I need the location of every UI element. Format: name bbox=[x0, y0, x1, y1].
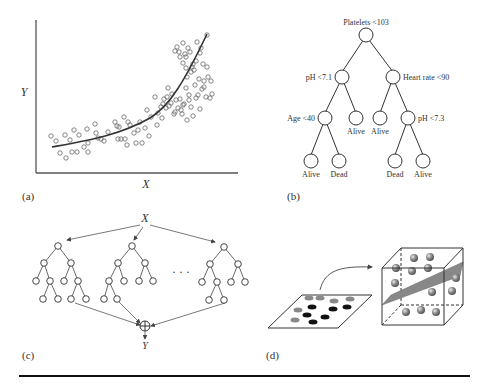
scatter-point bbox=[185, 118, 189, 122]
tree-node bbox=[206, 297, 213, 304]
tree-node bbox=[332, 154, 346, 168]
node-label: Heart rate <90 bbox=[403, 73, 449, 82]
scatter-point bbox=[77, 133, 81, 137]
scatter-point bbox=[202, 79, 206, 83]
node-label: Alive bbox=[371, 127, 389, 136]
scatter-point bbox=[187, 98, 191, 102]
scatter-point bbox=[184, 86, 188, 90]
tree-node bbox=[101, 296, 108, 303]
scatter-point bbox=[132, 131, 136, 135]
panel-c-tree-ensemble: X · · · Y bbox=[33, 211, 249, 351]
panel-label-c: (c) bbox=[22, 349, 34, 361]
scatter-point bbox=[68, 138, 72, 142]
figure-canvas: X Y Platelets <103 pH <7.1 Hear bbox=[0, 0, 481, 387]
panel-label-a: (a) bbox=[22, 190, 34, 202]
tree-node bbox=[401, 111, 415, 125]
scatter-point bbox=[197, 77, 201, 81]
scatter-point bbox=[145, 108, 149, 112]
scatter-point bbox=[209, 79, 213, 83]
node-label: Dead bbox=[387, 170, 404, 179]
node-label: Age <40 bbox=[287, 114, 315, 123]
node-label: Alive bbox=[414, 170, 432, 179]
scatter-point bbox=[125, 143, 129, 147]
node-label: pH <7.3 bbox=[418, 114, 444, 123]
scatter-point bbox=[182, 102, 186, 106]
scatter-point bbox=[136, 128, 140, 132]
tree-node bbox=[114, 296, 121, 303]
scatter-point bbox=[134, 141, 138, 145]
scatter-point bbox=[189, 105, 193, 109]
scatter-point bbox=[193, 83, 197, 87]
tree-node bbox=[55, 296, 62, 303]
scatter-point bbox=[58, 151, 62, 155]
scatter-point bbox=[49, 134, 53, 138]
node-label: Alive bbox=[302, 170, 320, 179]
y-axis-label: Y bbox=[21, 85, 29, 99]
tree-node bbox=[416, 154, 430, 168]
node-label: Dead bbox=[331, 170, 348, 179]
ensemble-input-label: X bbox=[140, 211, 149, 225]
scatter-point bbox=[184, 55, 188, 59]
scatter-point bbox=[86, 150, 90, 154]
scatter-point bbox=[183, 52, 187, 56]
combine-icon bbox=[140, 321, 150, 331]
scatter-point bbox=[205, 65, 209, 69]
tree-node bbox=[68, 260, 75, 267]
tree-node bbox=[40, 296, 47, 303]
scatter-point bbox=[63, 133, 67, 137]
tree-node bbox=[207, 261, 214, 268]
tree-node bbox=[68, 296, 75, 303]
scatter-point bbox=[85, 127, 89, 131]
scatter-point bbox=[94, 131, 98, 135]
scatter-point bbox=[72, 128, 76, 132]
tree-node bbox=[235, 261, 242, 268]
tree-node bbox=[55, 243, 62, 250]
scatter-points bbox=[49, 33, 214, 160]
scatter-point bbox=[181, 61, 185, 65]
scatter-point bbox=[75, 150, 79, 154]
tree-node bbox=[121, 278, 128, 285]
scatter-point bbox=[191, 114, 195, 118]
panel-label-d: (d) bbox=[266, 349, 279, 361]
scatter-point bbox=[106, 130, 110, 134]
scatter-point bbox=[187, 93, 191, 97]
tree-node bbox=[318, 111, 332, 125]
scatter-point bbox=[173, 49, 177, 53]
tree-node bbox=[142, 260, 149, 267]
ellipsis: · · · bbox=[172, 265, 190, 279]
tree-node bbox=[228, 279, 235, 286]
ensemble-output-label: Y bbox=[142, 340, 149, 351]
tree-node bbox=[129, 243, 136, 250]
mapping-arrow bbox=[320, 267, 372, 290]
tree-node bbox=[349, 111, 363, 125]
tree-node bbox=[386, 70, 400, 84]
ensemble-tree bbox=[101, 243, 157, 303]
fit-curve bbox=[52, 34, 207, 147]
scatter-point bbox=[201, 62, 205, 66]
tree-node bbox=[47, 278, 54, 285]
scatter-point bbox=[204, 95, 208, 99]
scatter-point bbox=[122, 115, 126, 119]
scatter-point bbox=[186, 46, 190, 50]
ensemble-trees bbox=[33, 243, 249, 304]
scatter-point bbox=[178, 97, 182, 101]
tree-node bbox=[115, 260, 122, 267]
scatter-point bbox=[140, 141, 144, 145]
scatter-point bbox=[155, 123, 159, 127]
scatter-point bbox=[198, 107, 202, 111]
scatter-point bbox=[54, 139, 58, 143]
scatter-point bbox=[64, 156, 68, 160]
tree-node bbox=[106, 278, 113, 285]
tree-node bbox=[83, 296, 90, 303]
scatter-point bbox=[153, 95, 157, 99]
tree-node bbox=[199, 279, 206, 286]
tree-node bbox=[304, 154, 318, 168]
scatter-point bbox=[143, 126, 147, 130]
tree-node bbox=[150, 278, 157, 285]
scatter-point bbox=[184, 66, 188, 70]
scatter-point bbox=[166, 86, 170, 90]
tree-node bbox=[214, 279, 221, 286]
panel-d-kernel-mapping bbox=[268, 248, 463, 328]
panel-label-b: (b) bbox=[287, 190, 300, 202]
panel-b-decision-tree bbox=[304, 28, 430, 168]
